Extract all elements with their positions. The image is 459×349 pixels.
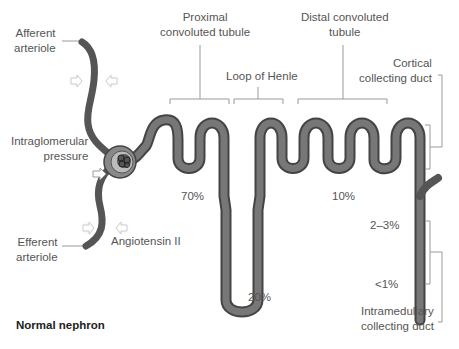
distal-tubule-label: Distal convolutedtubule <box>301 10 389 40</box>
intramedullary-percentage: <1% <box>375 277 398 292</box>
loop-of-henle-label: Loop of Henle <box>226 69 298 84</box>
bracket-proximal <box>170 45 229 104</box>
afferent-arteriole-label: Afferentarteriole <box>14 26 56 56</box>
loop-percentage: 20% <box>248 290 271 305</box>
bracket-loop <box>234 87 283 104</box>
diagram-title: Normal nephron <box>16 318 105 333</box>
proximal-tubule-label: Proximalconvoluted tubule <box>160 10 250 40</box>
nephron-diagram <box>0 0 459 349</box>
cortical-percentage: 2–3% <box>370 218 399 233</box>
angiotensin-label: Angiotensin II <box>111 234 181 249</box>
glomerulus <box>104 146 136 178</box>
distal-percentage: 10% <box>332 189 355 204</box>
cortical-collecting-duct-label: Corticalcollecting duct <box>359 56 432 86</box>
intraglomerular-pressure-label: Intraglomerularpressure <box>11 134 88 164</box>
proximal-percentage: 70% <box>181 189 204 204</box>
efferent-arteriole-label: Efferentarteriole <box>16 235 58 265</box>
intramedullary-collecting-duct-label: Intramedullarycollecting duct <box>361 304 434 334</box>
bracket-cortical <box>425 75 442 169</box>
